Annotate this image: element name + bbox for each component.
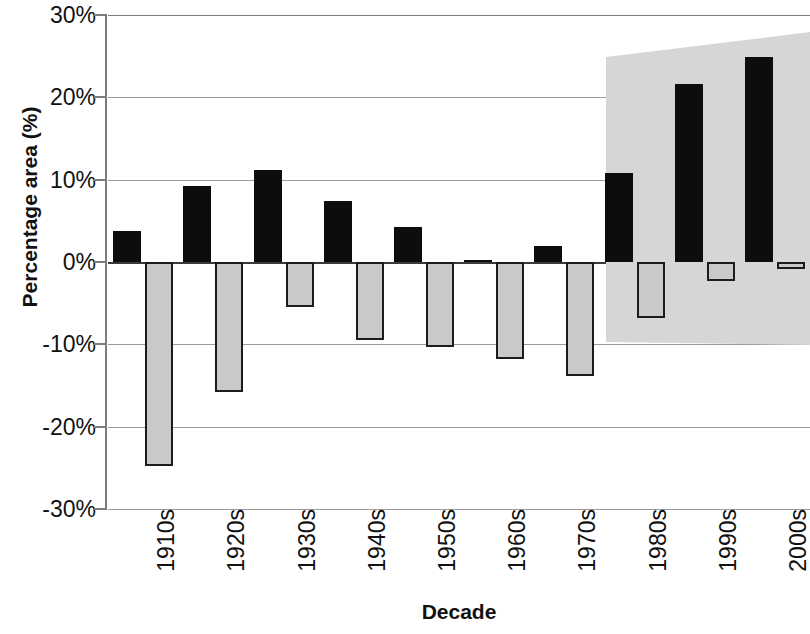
- y-tick-mark: [94, 179, 106, 181]
- y-tick-label: 20%: [4, 86, 96, 109]
- x-tick-label: 1940s: [364, 509, 391, 572]
- bar-positive-1950s: [394, 227, 422, 262]
- x-axis-title: Decade: [108, 600, 810, 624]
- x-tick-label: 1960s: [504, 509, 531, 572]
- gridline--10%: [108, 344, 810, 345]
- y-tick-label: 10%: [4, 168, 96, 191]
- bar-positive-1910s: [113, 231, 141, 262]
- y-tick-mark: [94, 508, 106, 510]
- bar-negative-1960s: [496, 262, 524, 359]
- y-tick-label: -20%: [4, 415, 96, 438]
- bar-positive-1930s: [254, 170, 282, 262]
- y-tick-label: -30%: [4, 498, 96, 521]
- x-axis-tick-labels: 1910s1920s1930s1940s1950s1960s1970s1980s…: [108, 509, 810, 604]
- bar-negative-1950s: [426, 262, 454, 347]
- y-tick-mark: [94, 343, 106, 345]
- y-tick-label: 0%: [4, 251, 96, 274]
- bar-negative-1990s: [707, 262, 735, 281]
- x-tick-label: 1910s: [153, 509, 180, 572]
- y-tick-label: -10%: [4, 333, 96, 356]
- bar-negative-1930s: [286, 262, 314, 307]
- bar-positive-1970s: [534, 246, 562, 262]
- gridline-20%: [108, 97, 810, 98]
- bar-negative-2000s: [777, 262, 805, 269]
- y-tick-mark: [94, 261, 106, 263]
- x-tick-label: 1980s: [645, 509, 672, 572]
- y-tick-mark: [94, 14, 106, 16]
- bar-negative-1980s: [637, 262, 665, 318]
- x-tick-label: 1970s: [574, 509, 601, 572]
- bar-positive-2000s: [745, 57, 773, 262]
- bar-negative-1910s: [145, 262, 173, 466]
- bar-negative-1940s: [356, 262, 384, 340]
- bar-negative-1920s: [215, 262, 243, 392]
- bar-positive-1920s: [183, 186, 211, 262]
- y-axis-tick-labels: 30%20%10%0%-10%-20%-30%: [0, 0, 96, 634]
- gridline-10%: [108, 180, 810, 181]
- bar-positive-1990s: [675, 84, 703, 262]
- gridline--20%: [108, 427, 810, 428]
- bar-positive-1980s: [605, 173, 633, 262]
- plot-area: [108, 15, 810, 509]
- y-tick-mark: [94, 426, 106, 428]
- x-tick-label: 1950s: [434, 509, 461, 572]
- y-tick-mark: [94, 96, 106, 98]
- x-tick-label: 1990s: [715, 509, 742, 572]
- gridline-0%: [108, 262, 810, 264]
- bar-positive-1960s: [464, 260, 492, 262]
- bar-chart: Percentage area (%) 30%20%10%0%-10%-20%-…: [0, 0, 810, 634]
- y-tick-label: 30%: [4, 4, 96, 27]
- bar-negative-1970s: [566, 262, 594, 376]
- x-tick-label: 2000s: [785, 509, 810, 572]
- gridline-30%: [108, 15, 810, 16]
- x-tick-label: 1920s: [223, 509, 250, 572]
- bar-positive-1940s: [324, 201, 352, 262]
- x-tick-label: 1930s: [294, 509, 321, 572]
